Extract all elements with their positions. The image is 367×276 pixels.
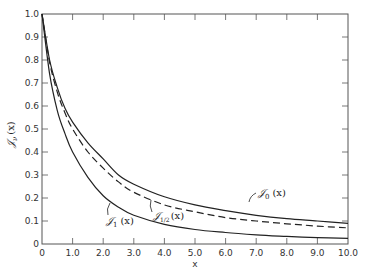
plot-frame (42, 14, 348, 244)
y-tick-label: 0.3 (25, 170, 39, 180)
y-tick-label: 0.6 (25, 101, 40, 111)
y-tick-label: 0.1 (25, 216, 39, 226)
curve-j0 (42, 14, 348, 223)
leader-j0 (249, 193, 256, 202)
x-tick-label: 1.0 (65, 248, 80, 258)
label-j0: 𝒥0(x) (257, 187, 286, 201)
line-chart: 01.02.03.04.05.06.07.08.09.010.000.10.20… (0, 0, 367, 276)
x-tick-label: 5.0 (188, 248, 203, 258)
y-tick-label: 0.4 (25, 147, 40, 157)
y-tick-label: 0.5 (25, 124, 39, 134)
label-jhalf: 𝒥1/2(x) (152, 210, 184, 223)
curves (42, 14, 348, 238)
x-tick-label: 4.0 (157, 248, 172, 258)
y-tick-label: 0 (33, 239, 39, 249)
x-tick-label: 8.0 (280, 248, 295, 258)
x-tick-label: 2.0 (96, 248, 111, 258)
leader-jhalf (150, 200, 152, 212)
y-tick-label: 1.0 (25, 9, 40, 19)
y-axis-title: 𝒥ν(x) (5, 121, 19, 149)
x-tick-label: 0 (39, 248, 45, 258)
x-axis-title: x (192, 259, 198, 269)
x-tick-label: 3.0 (127, 248, 142, 258)
axes-frame (42, 14, 348, 244)
label-j1: 𝒥1(x) (105, 215, 134, 229)
x-tick-label: 9.0 (310, 248, 325, 258)
x-tick-label: 6.0 (218, 248, 233, 258)
x-tick-label: 10.0 (338, 248, 358, 258)
curve-jhalf (42, 14, 348, 228)
y-tick-label: 0.8 (25, 55, 40, 65)
y-tick-label: 0.2 (25, 193, 39, 203)
leader-j1 (107, 203, 110, 215)
x-tick-label: 7.0 (249, 248, 264, 258)
y-tick-label: 0.7 (25, 78, 39, 88)
y-tick-label: 0.9 (25, 32, 40, 42)
